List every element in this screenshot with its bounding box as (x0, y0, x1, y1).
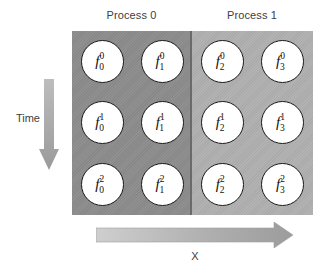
node-label: f21 (156, 177, 170, 192)
node-f3-2[interactable]: f23 (261, 163, 304, 206)
process-1-label: Process 1 (191, 9, 313, 21)
node-label: f01 (156, 54, 170, 69)
node-f1-0[interactable]: f01 (141, 40, 184, 83)
node-label: f10 (95, 115, 109, 130)
process-boundary-divider (190, 31, 192, 215)
time-axis-label: Time (8, 112, 40, 124)
node-f2-2[interactable]: f22 (201, 163, 244, 206)
x-axis-label: X (170, 250, 220, 262)
node-label: f11 (156, 115, 169, 130)
node-label: f20 (95, 177, 109, 192)
node-label: f12 (216, 115, 230, 130)
diagram-canvas: Process 0 Process 1 f00 f01 f02 f03 f10 … (0, 0, 326, 273)
node-f0-0[interactable]: f00 (81, 40, 124, 83)
x-arrow-right-icon (96, 222, 293, 250)
node-label: f23 (276, 177, 290, 192)
node-f0-2[interactable]: f20 (81, 163, 124, 206)
node-label: f03 (276, 54, 290, 69)
node-f0-1[interactable]: f10 (81, 101, 124, 144)
node-label: f13 (276, 115, 290, 130)
process-0-label: Process 0 (72, 9, 191, 21)
node-label: f00 (95, 54, 109, 69)
node-f2-0[interactable]: f02 (201, 40, 244, 83)
node-label: f02 (216, 54, 230, 69)
node-f1-2[interactable]: f21 (141, 163, 184, 206)
time-arrow-down-icon (38, 79, 60, 170)
node-label: f22 (216, 177, 230, 192)
